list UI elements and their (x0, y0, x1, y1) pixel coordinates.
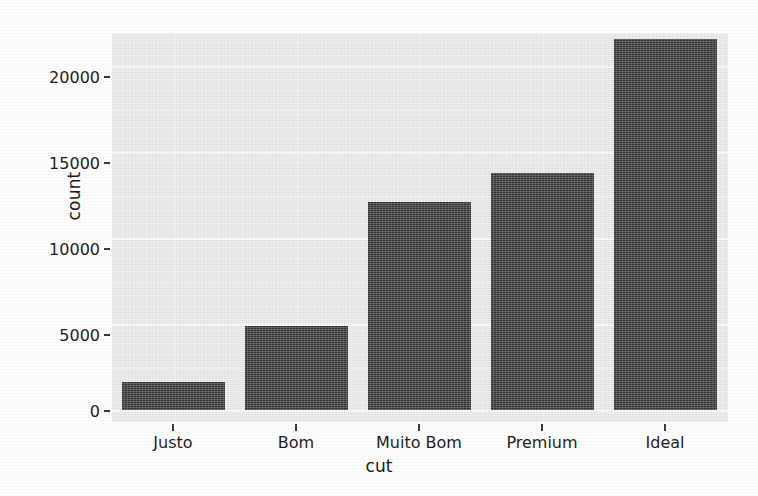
plot-panel (112, 33, 728, 422)
y-axis-title: count (64, 136, 84, 256)
y-tick-mark (104, 162, 110, 164)
bar-bom (245, 326, 348, 410)
x-tick-label: Muito Bom (376, 433, 462, 452)
x-tick-mark (295, 424, 297, 431)
y-tick-label: 5000 (28, 326, 100, 345)
bar-justo (122, 382, 225, 410)
x-tick-label: Justo (153, 433, 192, 452)
x-tick-mark (172, 424, 174, 431)
y-tick-mark (104, 334, 110, 336)
bar-muito-bom (368, 202, 471, 410)
y-tick-mark (104, 410, 110, 412)
y-tick-label: 20000 (28, 68, 100, 87)
x-tick-mark (664, 424, 666, 431)
y-tick-label: 0 (28, 402, 100, 421)
x-axis-title: cut (0, 456, 758, 476)
bar-ideal (614, 39, 717, 410)
x-tick-mark (418, 424, 420, 431)
bar-chart-figure: 20000 15000 10000 5000 0 count Justo Bom… (0, 0, 758, 496)
y-tick-mark (104, 76, 110, 78)
x-tick-mark (541, 424, 543, 431)
gridline-minor-x (174, 33, 175, 422)
x-tick-label: Premium (506, 433, 577, 452)
bar-premium (491, 173, 594, 410)
x-tick-label: Ideal (646, 433, 685, 452)
gridline-major-y (112, 410, 728, 412)
y-tick-mark (104, 248, 110, 250)
x-tick-label: Bom (278, 433, 314, 452)
